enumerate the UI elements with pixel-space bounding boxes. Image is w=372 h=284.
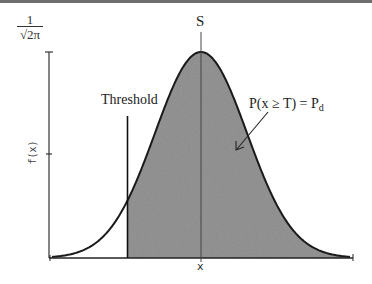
x-axis-label: x [197,260,204,273]
probability-label-subscript: d [319,102,324,113]
probability-label: P(x ≥ T) = Pd [249,96,324,113]
shaded-area-texture [127,52,350,258]
threshold-label: Threshold [101,92,158,108]
signal-label: S [196,13,204,30]
gaussian-plot [0,0,372,284]
y-axis-label: f(x) [27,140,38,164]
y-max-label: 1 √2π [17,13,43,42]
y-max-denominator: √2π [17,26,43,42]
probability-label-main: P(x ≥ T) = P [249,96,319,111]
y-max-numerator: 1 [17,13,43,26]
